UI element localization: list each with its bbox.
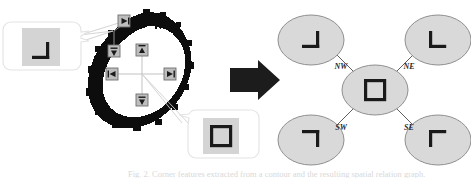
node-ne[interactable] (405, 15, 471, 65)
transform-arrow (230, 60, 280, 100)
edge-label-ne: NE (402, 62, 414, 71)
figure-canvas: NW NE SW SE Fig. 2. Corner features extr… (0, 0, 471, 178)
node-sw[interactable] (278, 115, 344, 165)
node-nw[interactable] (278, 15, 344, 65)
callout-square-patch (179, 110, 259, 158)
node-se[interactable] (405, 115, 471, 165)
figure-container: NW NE SW SE Fig. 2. Corner features extr… (0, 0, 471, 178)
square-patch-swatch (203, 118, 239, 154)
handle-n[interactable] (136, 44, 148, 56)
figure-caption: Fig. 2. Corner features extracted from a… (128, 169, 425, 178)
handle-e[interactable] (164, 68, 176, 80)
handle-ne[interactable] (118, 15, 130, 27)
edge-label-nw: NW (334, 62, 349, 71)
right-panel: NW NE SW SE (278, 15, 471, 165)
handle-w[interactable] (106, 68, 118, 80)
edge-label-sw: SW (335, 123, 347, 132)
handle-nw[interactable] (108, 45, 120, 57)
corner-patch-swatch (22, 28, 60, 66)
handle-s[interactable] (136, 94, 148, 106)
left-panel (3, 9, 259, 158)
contour-blob (86, 9, 194, 131)
callout-corner-patch (3, 22, 89, 70)
edge-label-se: SE (404, 123, 414, 132)
node-center[interactable] (342, 65, 408, 115)
